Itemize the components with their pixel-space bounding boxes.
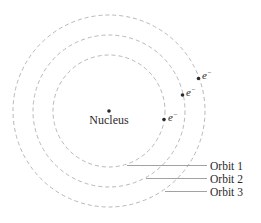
bohr-model-diagram: Nucleus e− e− e− Orbit 1 Orbit 2 Orbit 3: [0, 0, 261, 223]
electron-orbit-3-label: e−: [202, 69, 212, 81]
electron-orbit-3-dot: [197, 77, 201, 81]
orbit-1-label: Orbit 1: [210, 160, 243, 172]
electron-orbit-1-label: e−: [168, 111, 178, 123]
orbit-3-label: Orbit 3: [210, 186, 243, 198]
orbit-2-label: Orbit 2: [210, 173, 243, 185]
nucleus-label: Nucleus: [89, 113, 129, 127]
electron-orbit-2-dot: [181, 93, 185, 97]
electron-orbit-2-label: e−: [186, 86, 196, 98]
electron-orbit-1-dot: [162, 118, 166, 122]
